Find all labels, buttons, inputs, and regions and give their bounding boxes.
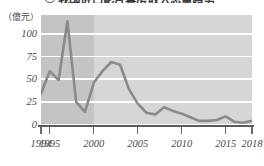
x-tick-2005: [137, 127, 138, 134]
x-tick-2018: [251, 127, 252, 134]
page-title: 我国进口影片票房收入总量趋势: [58, 0, 264, 3]
title-bullet: 3: [44, 0, 56, 3]
y-tick-label-50: 50: [27, 73, 38, 84]
x-tick-label-2015: 2015: [215, 138, 236, 149]
x-tick-2000: [93, 127, 94, 134]
x-tick-2015: [225, 127, 226, 134]
chart-figure: 3 我国进口影片票房收入总量趋势 （億元） 199419952000200520…: [0, 0, 264, 166]
x-tick-label-2010: 2010: [171, 138, 192, 149]
x-tick-label-2018: 2018: [242, 138, 263, 149]
y-tick-label-0: 0: [32, 118, 37, 129]
x-axis-line: [38, 125, 254, 128]
x-tick-1994: [40, 127, 41, 134]
y-tick-label-75: 75: [27, 50, 38, 61]
x-tick-label-2005: 2005: [127, 138, 148, 149]
line-series-svg: [41, 15, 252, 125]
y-tick-label-25: 25: [27, 95, 38, 106]
plot-area: [41, 15, 252, 125]
x-tick-label-1995: 1995: [39, 138, 60, 149]
y-tick-label-100: 100: [21, 28, 37, 39]
x-tick-1995: [49, 127, 50, 134]
x-tick-2010: [181, 127, 182, 134]
series-line-imported-film-boxoffice: [41, 21, 252, 122]
x-tick-label-2000: 2000: [83, 138, 104, 149]
y-axis-tick-labels: 0255075100: [0, 0, 37, 166]
